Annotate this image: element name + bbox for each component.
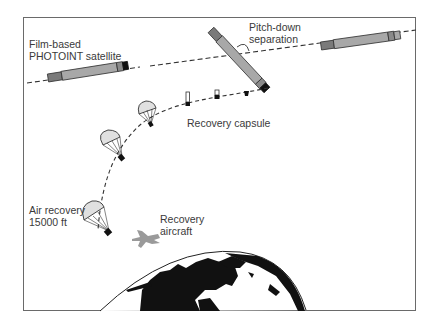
capsule-label-text: Recovery capsule [187,117,270,129]
air-recovery-line1: Air recovery [29,204,85,216]
recovery-aircraft [132,230,160,248]
satellite-label-line1: Film-based [29,38,121,50]
pitch-label-line1: Pitch-down [249,21,301,33]
air-recovery-label: Air recovery 15000 ft [29,204,85,228]
parachute-3-air-recovery [83,201,113,236]
satellite-label: Film-based PHOTOINT satellite [29,38,121,62]
parachute-2 [100,130,125,162]
capsule-3 [244,91,249,96]
recovery-aircraft-label: Recovery aircraft [160,213,204,237]
parachute-1 [138,101,156,127]
aircraft-label-line1: Recovery [160,213,204,225]
pitch-down-label: Pitch-down separation [249,21,301,45]
pitch-label-line2: separation [249,33,301,45]
capsule-with-drogue-1 [186,92,191,106]
pitch-angle-arc [237,44,249,51]
air-recovery-line2: 15000 ft [29,216,85,228]
earth [100,251,306,311]
recovery-capsule-label: Recovery capsule [187,117,270,129]
aircraft-label-line2: aircraft [160,225,204,237]
satellite-left [47,61,128,83]
satellite-right [320,30,400,50]
satellite-label-line2: PHOTOINT satellite [29,50,121,62]
capsule-with-drogue-2 [215,90,220,99]
capsule-sequence [186,90,250,106]
